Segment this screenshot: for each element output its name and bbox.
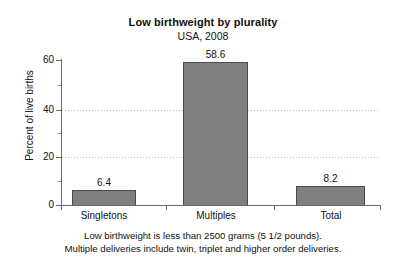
- x-tick-mark-2: [274, 206, 275, 210]
- x-axis-label-total: Total: [288, 210, 374, 221]
- footnote-line-2: Multiple deliveries include twin, triple…: [0, 243, 406, 255]
- y-tick-mark-60: [56, 60, 61, 61]
- y-tick-minor-10: [58, 181, 61, 182]
- bar-chart: Low birthweight by plurality USA, 2008 P…: [0, 0, 406, 261]
- y-axis-title: Percent of live births: [24, 46, 35, 186]
- y-tick-mark-20: [56, 157, 61, 158]
- bar-value-total: 8.2: [296, 173, 365, 184]
- y-tick-label-40: 40: [14, 105, 54, 115]
- x-tick-mark-end: [380, 206, 381, 210]
- y-tick-mark-40: [56, 110, 61, 111]
- x-axis-line: [61, 205, 381, 206]
- bar-total[interactable]: [296, 186, 365, 206]
- bar-multiples[interactable]: [183, 62, 248, 206]
- footnote-line-1: Low birthweight is less than 2500 grams …: [0, 230, 406, 242]
- x-axis-label-multiples: Multiples: [173, 210, 259, 221]
- bar-singletons[interactable]: [72, 190, 136, 206]
- x-tick-mark-1: [166, 206, 167, 210]
- chart-title: Low birthweight by plurality: [0, 16, 406, 28]
- y-axis-line: [61, 59, 62, 206]
- y-tick-label-20: 20: [14, 152, 54, 162]
- y-tick-minor-50: [58, 85, 61, 86]
- bar-value-singletons: 6.4: [72, 177, 136, 188]
- chart-subtitle: USA, 2008: [0, 30, 406, 42]
- y-tick-label-0: 0: [14, 200, 54, 210]
- x-axis-label-singletons: Singletons: [62, 210, 146, 221]
- y-tick-minor-30: [58, 133, 61, 134]
- y-tick-label-60: 60: [14, 55, 54, 65]
- bar-value-multiples: 58.6: [183, 49, 248, 60]
